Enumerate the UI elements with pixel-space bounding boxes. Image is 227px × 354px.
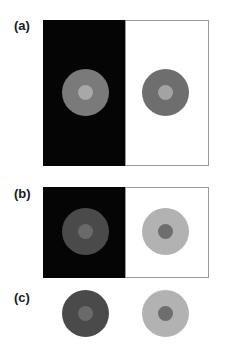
panel-c-right-disc <box>142 290 189 337</box>
panel-b-left-disc <box>62 208 109 255</box>
panel-b <box>43 187 209 278</box>
panel-c-label: (c) <box>14 290 30 305</box>
panel-c-left-disc <box>62 290 109 337</box>
panel-a-right-center <box>158 85 173 100</box>
panel-b-left-center <box>78 224 93 239</box>
panel-a-left-disc <box>62 69 109 116</box>
panel-b-right-disc <box>142 208 189 255</box>
panel-c <box>43 290 209 340</box>
panel-c-right-center <box>158 306 173 321</box>
panel-a-left-center <box>78 85 93 100</box>
panel-b-label: (b) <box>14 186 31 201</box>
panel-b-right-center <box>158 224 173 239</box>
panel-c-left-center <box>78 306 93 321</box>
panel-a-label: (a) <box>14 18 30 33</box>
panel-a-right-disc <box>142 69 189 116</box>
panel-a <box>43 20 209 166</box>
